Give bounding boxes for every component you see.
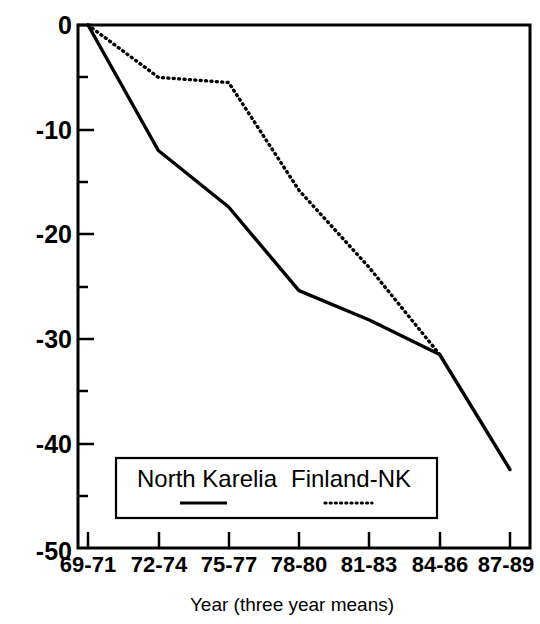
series-line-north-karelia xyxy=(88,25,510,470)
y-axis-ticks xyxy=(78,25,94,496)
x-tick-label-78-80: 78-80 xyxy=(271,552,327,577)
legend-label-finland-nk: Finland-NK xyxy=(291,465,411,492)
legend-label-north-karelia: North Karelia xyxy=(137,465,278,492)
x-tick-label-84-86: 84-86 xyxy=(412,552,468,577)
y-tick-label-m30: -30 xyxy=(36,325,72,353)
x-tick-label-72-74: 72-74 xyxy=(131,552,188,577)
x-axis-ticks xyxy=(88,532,510,548)
x-tick-label-81-83: 81-83 xyxy=(341,552,397,577)
line-chart: 0 -10 -20 -30 -40 -50 69-71 72-74 75-77 … xyxy=(0,0,540,624)
chart-container: 0 -10 -20 -30 -40 -50 69-71 72-74 75-77 … xyxy=(0,0,540,624)
x-tick-label-69-71: 69-71 xyxy=(60,552,116,577)
y-tick-label-m10: -10 xyxy=(36,116,72,144)
y-tick-label-m20: -20 xyxy=(36,220,72,248)
legend: North Karelia Finland-NK xyxy=(116,458,437,518)
y-tick-label-0: 0 xyxy=(58,11,72,39)
x-tick-label-87-89: 87-89 xyxy=(478,552,534,577)
series-line-finland-nk xyxy=(88,25,440,354)
x-axis-title: Year (three year means) xyxy=(190,594,394,615)
y-tick-label-m40: -40 xyxy=(36,430,72,458)
x-tick-label-75-77: 75-77 xyxy=(201,552,257,577)
